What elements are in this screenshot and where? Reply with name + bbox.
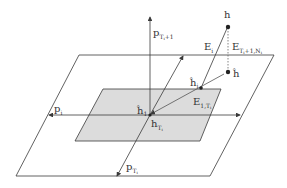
label-h: h (224, 9, 231, 20)
point-h-hat (226, 70, 230, 74)
label-p-ti-plus-1: pTi+1 (153, 27, 174, 41)
point-origin (148, 113, 151, 116)
label-h-hat: ĥ (232, 68, 240, 79)
vector-e-i (201, 26, 228, 88)
label-h-i-hat: ĥi (189, 77, 198, 89)
point-h-i (199, 86, 203, 90)
label-p-i: pi (54, 103, 62, 116)
point-h (226, 25, 230, 29)
label-e-i: Ei (204, 41, 213, 54)
subspace-projection-diagram: pTi+1 Ei ETi+1,Ni h ĥ ĥi E1,Ti pi ĥ1 hTi… (0, 0, 287, 188)
label-p-ti: pTi (126, 161, 138, 175)
label-e-tail: ETi+1,Ni (232, 41, 263, 55)
